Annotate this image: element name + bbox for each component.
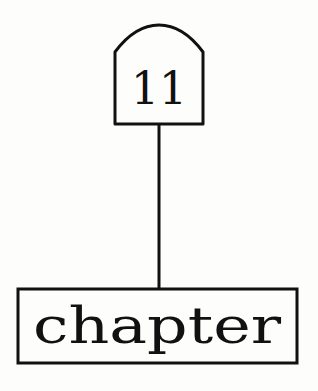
top-node-label: 11 xyxy=(131,63,187,114)
bottom-node: chapter xyxy=(18,289,297,363)
top-node: 11 xyxy=(115,25,203,124)
bottom-node-label: chapter xyxy=(33,297,281,355)
diagram-canvas: 11 chapter xyxy=(0,0,318,391)
